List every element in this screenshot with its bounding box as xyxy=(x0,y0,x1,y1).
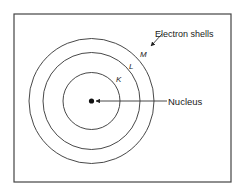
nucleus-dot xyxy=(89,98,94,103)
atom-diagram: Nucleus Electron shells M L K xyxy=(0,0,243,187)
shell-label-l: L xyxy=(129,62,133,71)
nucleus-label: Nucleus xyxy=(168,96,203,107)
shell-label-m: M xyxy=(140,50,147,59)
shell-label-k: K xyxy=(116,75,122,84)
electron-shells-label: Electron shells xyxy=(155,29,214,39)
